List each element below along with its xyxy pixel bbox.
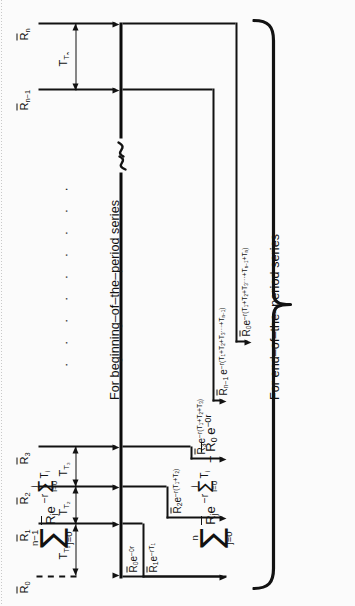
formula1-lower-limit: j=0 — [64, 531, 74, 544]
formula1-body: Rje — [43, 506, 59, 525]
formula2-exponent: −r j ∑ i=0 Ti — [190, 471, 220, 503]
formula2-body: Rje — [203, 506, 219, 525]
formula2-caption: For end–of–the–period series — [268, 234, 282, 400]
formula-beginning-of-period: n−1 ∑ j=0 Rje −r j ∑ i=0 — [12, 398, 162, 598]
formula2-lower-limit: j=0 — [224, 531, 234, 544]
formula2-sigma: ∑ — [200, 528, 224, 548]
formula-block: n−1 ∑ j=0 Rje −r j ∑ i=0 — [0, 0, 355, 606]
formula1-caption: For beginning–of–the–period series — [108, 200, 122, 400]
formula1-sigma: ∑ — [40, 528, 64, 548]
formula-end-of-period: n ∑ j=0 Rje −r j ∑ i=0 Ti — [172, 398, 322, 598]
formula2-tail: − R0 e−0r — [203, 415, 219, 463]
formula1-exponent: −r j ∑ i=0 Ti — [30, 471, 60, 503]
figure-page: R0 R1 R2 R3 · · · · · · · · · Rn−1 — [0, 0, 355, 606]
